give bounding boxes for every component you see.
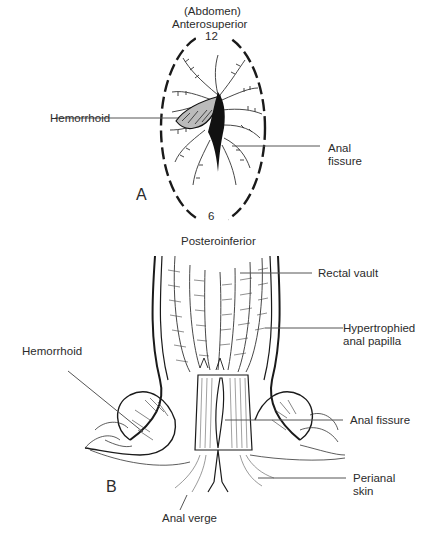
panel-letter-a: A <box>136 186 147 204</box>
callout-hemorrhoid-b: Hemorrhoid <box>22 345 82 358</box>
posteroinferior-label: Posteroinferior <box>181 235 256 248</box>
panel-a-drawing <box>161 28 265 228</box>
callout-anal-fissure-a-line2: fissure <box>328 155 362 168</box>
callout-perianal-line1: Perianal <box>353 472 395 485</box>
callout-anal-fissure-b: Anal fissure <box>350 414 410 427</box>
callout-anal-fissure-a-line1: Anal <box>328 142 351 155</box>
callout-papilla-line1: Hypertrophied <box>343 322 415 335</box>
panel-letter-b: B <box>106 478 117 496</box>
callout-rectal-vault: Rectal vault <box>318 267 378 280</box>
caption-cropped <box>0 536 425 542</box>
clock-12-label: 12 <box>205 30 218 43</box>
callout-papilla-line2: anal papilla <box>343 335 401 348</box>
clock-6-label: 6 <box>208 210 214 223</box>
callout-hemorrhoid-a: Hemorrhoid <box>50 112 110 125</box>
callout-perianal-line2: skin <box>353 485 373 498</box>
abdomen-label: (Abdomen) <box>184 5 241 18</box>
callout-anal-verge: Anal verge <box>162 512 217 525</box>
panel-b-drawing <box>85 256 345 492</box>
